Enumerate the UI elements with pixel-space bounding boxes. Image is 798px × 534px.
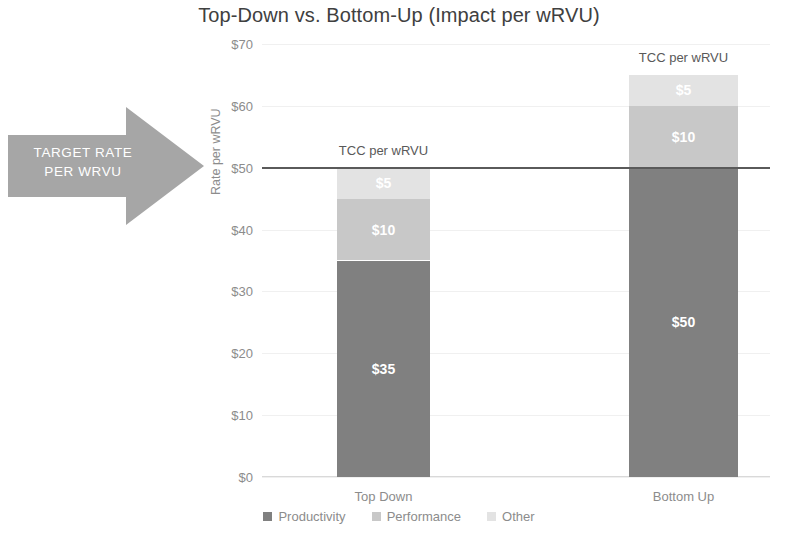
bar-top-down[interactable]: $35$10$5TCC per wRVUTop Down xyxy=(337,168,430,477)
legend-swatch-icon xyxy=(487,512,496,521)
bar-segment-other[interactable]: $5 xyxy=(337,168,430,199)
plot-area: $70$60$50$40$30$20$10$0 $35$10$5TCC per … xyxy=(262,44,770,477)
y-axis-tick-label: $50 xyxy=(231,160,253,175)
y-axis-tick-label: $30 xyxy=(231,284,253,299)
legend-swatch-icon xyxy=(263,512,272,521)
y-axis-tick-label: $60 xyxy=(231,98,253,113)
bar-segment-performance[interactable]: $10 xyxy=(337,199,430,261)
y-axis-tick-label: $10 xyxy=(231,408,253,423)
chart-legend: ProductivityPerformanceOther xyxy=(0,509,798,524)
bar-segment-value-label: $10 xyxy=(672,129,695,145)
bar-segment-productivity[interactable]: $50 xyxy=(629,168,738,477)
y-axis-tick-label: $40 xyxy=(231,222,253,237)
bar-segment-value-label: $50 xyxy=(672,314,695,330)
legend-item-label: Other xyxy=(502,509,535,524)
bar-segment-performance[interactable]: $10 xyxy=(629,106,738,168)
y-axis-tick-label: $0 xyxy=(239,470,253,485)
y-axis-tick-label: $20 xyxy=(231,346,253,361)
legend-item-label: Productivity xyxy=(278,509,345,524)
gridline xyxy=(262,477,770,478)
bar-segment-value-label: $5 xyxy=(676,82,692,98)
target-rate-callout-text: TARGET RATE PER WRVU xyxy=(18,143,148,181)
legend-item-other[interactable]: Other xyxy=(487,509,535,524)
callout-line-1: TARGET RATE xyxy=(18,143,148,162)
y-axis-tick-label: $70 xyxy=(231,37,253,52)
callout-line-2: PER WRVU xyxy=(18,162,148,181)
gridline xyxy=(262,44,770,45)
bar-segment-productivity[interactable]: $35 xyxy=(337,261,430,478)
y-axis-title: Rate per wRVU xyxy=(209,108,223,195)
bar-segment-value-label: $5 xyxy=(376,175,392,191)
bar-total-annotation: TCC per wRVU xyxy=(339,143,428,158)
x-axis-tick-label: Bottom Up xyxy=(653,489,714,504)
legend-item-performance[interactable]: Performance xyxy=(372,509,461,524)
bar-total-annotation: TCC per wRVU xyxy=(639,50,728,65)
bar-segment-other[interactable]: $5 xyxy=(629,75,738,106)
bar-segment-value-label: $10 xyxy=(372,222,395,238)
bar-bottom-up[interactable]: $50$10$5TCC per wRVUBottom Up xyxy=(629,75,738,477)
target-reference-line xyxy=(262,167,770,169)
chart-title: Top-Down vs. Bottom-Up (Impact per wRVU) xyxy=(0,4,798,27)
bar-segment-value-label: $35 xyxy=(372,361,395,377)
legend-swatch-icon xyxy=(372,512,381,521)
x-axis-tick-label: Top Down xyxy=(355,489,413,504)
target-rate-callout: TARGET RATE PER WRVU xyxy=(8,107,204,225)
legend-item-productivity[interactable]: Productivity xyxy=(263,509,345,524)
legend-item-label: Performance xyxy=(387,509,461,524)
